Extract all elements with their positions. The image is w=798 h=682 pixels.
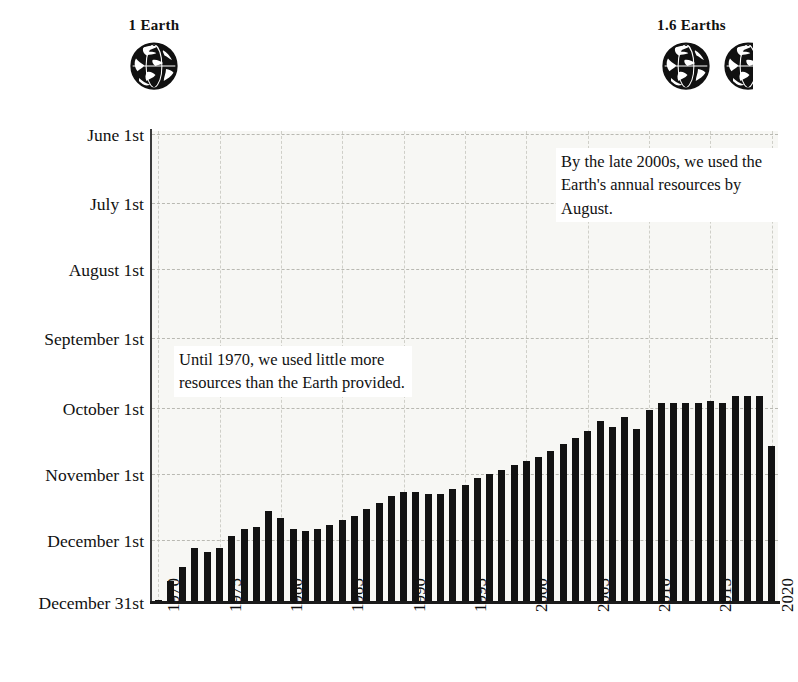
x-tick-label: 2010	[655, 578, 675, 612]
annotation-left: Until 1970, we used little more resource…	[174, 346, 412, 397]
x-tick-label: 2000	[532, 578, 552, 612]
x-tick-label: 1990	[410, 578, 430, 612]
x-tick-label: 1980	[287, 578, 307, 612]
annotation-right: By the late 2000s, we used the Earth's a…	[556, 148, 782, 222]
x-tick-label: 2020	[778, 578, 798, 612]
x-tick-label: 1970	[164, 578, 184, 612]
x-tick-label: 2005	[594, 578, 614, 612]
x-tick-label: 1995	[471, 578, 491, 612]
x-tick-label: 1975	[226, 578, 246, 612]
x-tick-label: 1985	[348, 578, 368, 612]
x-tick-label: 2015	[716, 578, 736, 612]
